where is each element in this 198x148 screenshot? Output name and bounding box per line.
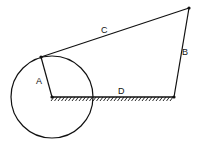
ground-hatching [51,97,174,101]
label-b: B [182,47,188,57]
pivot-ground-left [50,95,53,98]
pivot-ground-right [172,95,175,98]
label-c: C [101,25,108,35]
linkage-diagram: A B C D [0,0,198,148]
joint-coupler-right [187,6,190,9]
link-c [41,8,189,57]
joint-crank-tip [39,55,42,58]
label-d: D [118,86,125,96]
link-a [41,57,52,97]
label-a: A [36,76,42,86]
